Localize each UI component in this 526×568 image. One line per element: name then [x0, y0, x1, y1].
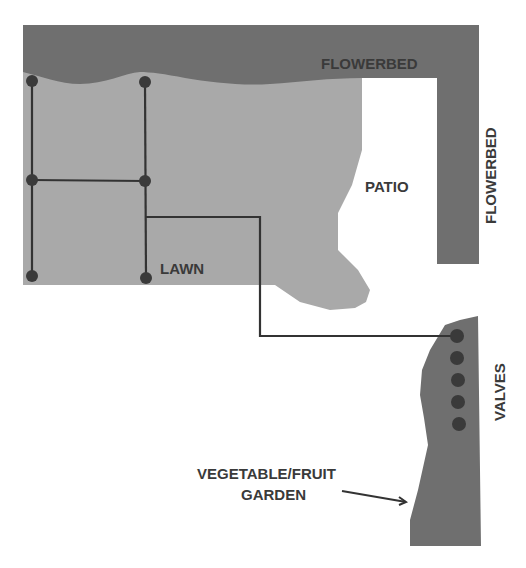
valve [451, 395, 465, 409]
sprinkler-head [140, 272, 152, 284]
irrigation-diagram: FLOWERBED FLOWERBED PATIO LAWN VALVES VE… [0, 0, 526, 568]
valve [450, 329, 464, 343]
sprinkler-head [26, 270, 38, 282]
flowerbed-right-label: FLOWERBED [482, 127, 499, 224]
sprinkler-head [139, 76, 151, 88]
valve [450, 351, 464, 365]
garden-arrow [342, 491, 406, 505]
garden-label-line2: GARDEN [241, 486, 306, 503]
valve [452, 417, 466, 431]
patio-label: PATIO [365, 178, 409, 195]
lawn-label: LAWN [160, 260, 204, 277]
sprinkler-head [139, 175, 151, 187]
valve [451, 373, 465, 387]
sprinkler-head [26, 75, 38, 87]
garden-label-line1: VEGETABLE/FRUIT [197, 465, 336, 482]
flowerbed-top-label: FLOWERBED [321, 55, 418, 72]
flowerbed-right [437, 76, 479, 264]
valves-label: VALVES [491, 363, 508, 421]
vegetable-garden-area [410, 316, 481, 546]
sprinkler-head [26, 174, 38, 186]
